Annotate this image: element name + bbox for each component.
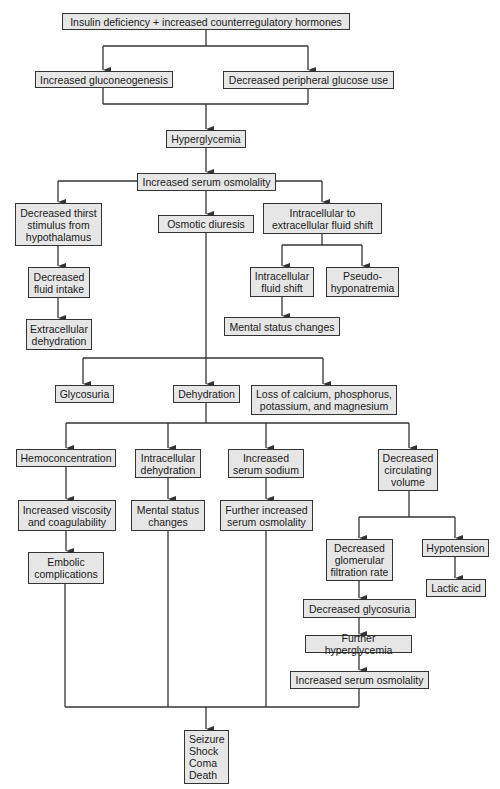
- node-intracellular-dehydration: Intracellular dehydration: [135, 449, 201, 478]
- node-mental-status-changes-2: Mental status changes: [131, 500, 205, 531]
- node-outcome: Seizure Shock Coma Death: [184, 730, 229, 784]
- node-decreased-circulating-volume: Decreased circulating volume: [378, 449, 438, 491]
- node-loss-of-electrolytes: Loss of calcium, phosphorus, potassium, …: [251, 385, 397, 415]
- node-lactic-acid: Lactic acid: [426, 579, 486, 597]
- node-dehydration: Dehydration: [173, 385, 240, 403]
- node-insulin-deficiency: Insulin deficiency + increased counterre…: [62, 13, 350, 30]
- node-increased-viscosity: Increased viscosity and coagulability: [18, 500, 116, 531]
- node-decreased-gfr: Decreased glomerular filtration rate: [326, 539, 393, 581]
- node-hyperglycemia: Hyperglycemia: [166, 130, 246, 148]
- node-extracellular-dehydration: Extracellular dehydration: [26, 319, 92, 350]
- node-pseudohyponatremia: Pseudo- hyponatremia: [326, 267, 399, 297]
- node-decreased-fluid-intake: Decreased fluid intake: [28, 267, 90, 298]
- node-decreased-thirst: Decreased thirst stimulus from hypothala…: [15, 203, 102, 246]
- node-increased-serum-osmolality: Increased serum osmolality: [137, 173, 276, 191]
- node-decreased-peripheral-glucose-use: Decreased peripheral glucose use: [223, 71, 394, 89]
- node-hypotension: Hypotension: [422, 539, 489, 557]
- node-intracellular-fluid-shift: Intracellular fluid shift: [250, 267, 314, 297]
- node-glycosuria: Glycosuria: [55, 385, 114, 403]
- node-increased-gluconeogenesis: Increased gluconeogenesis: [35, 71, 173, 88]
- node-mental-status-changes-1: Mental status changes: [224, 317, 340, 336]
- node-intracellular-to-extracellular-shift: Intracellular to extracellular fluid shi…: [263, 203, 382, 234]
- flowchart: Insulin deficiency + increased counterre…: [0, 0, 500, 789]
- node-osmotic-diuresis: Osmotic diuresis: [158, 215, 254, 233]
- node-hemoconcentration: Hemoconcentration: [16, 449, 116, 467]
- node-embolic-complications: Embolic complications: [28, 552, 104, 584]
- node-further-increased-serum-osmolality: Further increased serum osmolality: [220, 500, 313, 531]
- node-decreased-glycosuria: Decreased glycosuria: [303, 599, 416, 618]
- node-further-hyperglycemia: Further hyperglycemia: [305, 635, 412, 653]
- node-increased-serum-osmolality-2: Increased serum osmolality: [290, 671, 429, 689]
- node-increased-serum-sodium: Increased serum sodium: [228, 449, 304, 478]
